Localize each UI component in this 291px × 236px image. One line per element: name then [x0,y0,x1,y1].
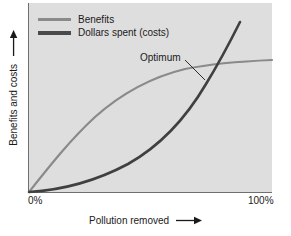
legend-swatch-benefits-icon [38,18,71,21]
legend-item-benefits: Benefits [38,13,169,26]
x-axis-title: Pollution removed [0,215,291,227]
right-arrow-icon [176,216,202,227]
legend-swatch-costs-icon [38,31,71,35]
up-arrow-icon [9,30,20,56]
x-axis-title-text: Pollution removed [89,215,169,226]
legend-label-benefits: Benefits [78,13,114,26]
optimum-leader-line [185,60,205,80]
economics-optimum-chart: Benefits Dollars spent (costs) Optimum 0… [0,0,291,236]
benefits-curve [29,60,272,192]
y-axis-title: Benefits and costs [8,8,20,168]
legend-item-costs: Dollars spent (costs) [38,26,169,39]
optimum-annotation-label: Optimum [140,52,181,63]
x-tick-label-right: 100% [248,195,274,206]
legend-label-costs: Dollars spent (costs) [78,26,169,39]
costs-curve [29,22,240,192]
x-tick-label-left: 0% [28,195,42,206]
legend: Benefits Dollars spent (costs) [38,13,169,39]
y-axis-title-text: Benefits and costs [8,64,19,146]
